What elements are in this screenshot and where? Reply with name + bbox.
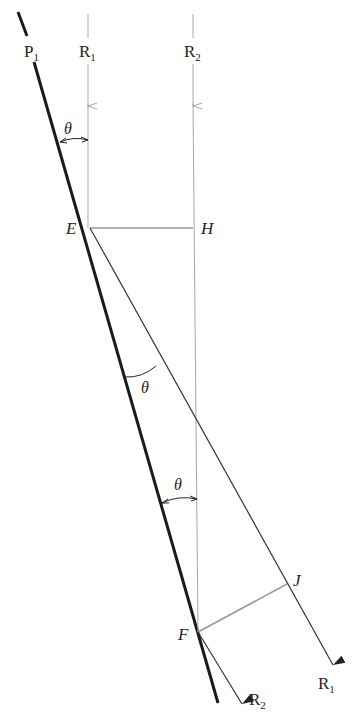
segment-fj <box>198 584 287 632</box>
ray-r2-out <box>198 632 242 704</box>
reflection-diagram: P1 R1 R2 θ θ θ E H F J R1 R2 <box>0 0 352 722</box>
plane-p1-line <box>34 62 218 703</box>
label-r2-out: R2 <box>249 690 266 711</box>
label-r2-in: R2 <box>184 42 201 63</box>
label-theta-low: θ <box>174 476 182 493</box>
label-point-e: E <box>65 219 77 238</box>
label-theta-top: θ <box>64 120 72 137</box>
label-point-f: F <box>177 625 189 644</box>
label-theta-mid: θ <box>141 379 149 396</box>
label-point-j: J <box>293 571 302 590</box>
ray-r2-in-lower <box>193 104 198 632</box>
label-r1-out: R1 <box>318 674 335 695</box>
label-r1-in: R1 <box>79 42 96 63</box>
ray-r1-out <box>90 228 333 665</box>
label-point-h: H <box>200 219 215 238</box>
plane-p1-upper <box>18 12 27 36</box>
label-p1: P1 <box>24 42 39 63</box>
angle-arc-mid <box>125 366 156 377</box>
